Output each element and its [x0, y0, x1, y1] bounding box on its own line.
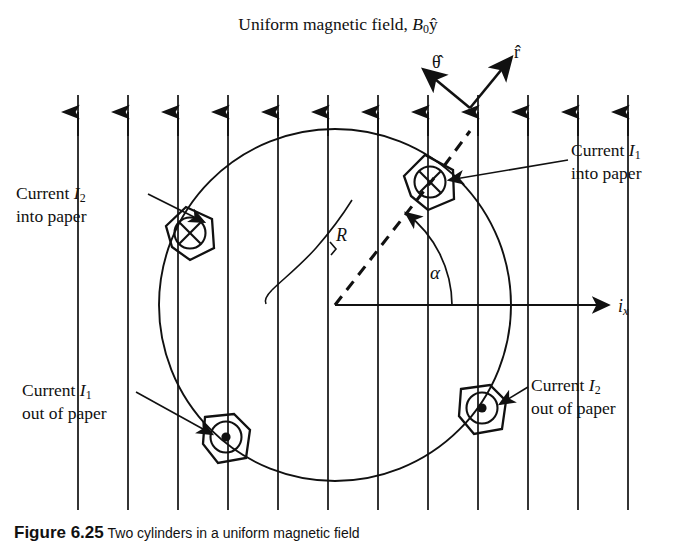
leader-i1-out: [136, 392, 212, 434]
field-hat: ŷ: [429, 14, 438, 34]
field-symbol: B: [412, 14, 423, 34]
leader-i1-into: [449, 160, 568, 180]
label-current-i2-out-of-paper: Current I2 out of paper: [531, 375, 616, 419]
label-lead: Current: [571, 140, 629, 160]
label-line-2: into paper: [571, 163, 641, 184]
label-current-subscript: 2: [595, 383, 601, 397]
label-current-subscript: 2: [80, 191, 86, 205]
r-hat-label: r̂: [514, 42, 520, 64]
label-lead: Current: [531, 375, 589, 395]
dashed-radius-extension: [444, 131, 470, 166]
alpha-angle-label: α: [430, 261, 440, 284]
label-line-1: Current I2: [531, 375, 616, 398]
current-dot-4: [477, 403, 486, 412]
x-axis-subscript: x: [623, 304, 628, 318]
label-line-1: Current I1: [571, 140, 641, 163]
radius-label: R: [336, 225, 347, 247]
figure-number: Figure 6.25: [14, 523, 104, 542]
theta-hat-label: θ̂: [432, 52, 441, 74]
x-axis-label: ix: [618, 296, 628, 319]
magnetic-field-lines: [78, 95, 628, 510]
label-line-2: out of paper: [531, 398, 616, 419]
label-lead: Current: [22, 380, 80, 400]
alpha-angle-arc: [406, 213, 452, 305]
label-line-2: into paper: [16, 206, 86, 227]
figure-caption-text: Two cylinders in a uniform magnetic fiel…: [108, 525, 360, 541]
theta-hat-vector: [424, 70, 470, 108]
leader-i2-out: [500, 387, 528, 404]
dashed-radius-line: [335, 178, 434, 305]
current-dot-3: [221, 432, 230, 441]
r-hat-vector: [470, 58, 511, 108]
figure-canvas: Uniform magnetic field, B0ŷ R α ix θ̂ r̂…: [0, 0, 676, 552]
diagram-svg: [0, 0, 676, 552]
label-current-subscript: 1: [635, 148, 641, 162]
label-lead: Current: [16, 183, 74, 203]
label-current-subscript: 1: [86, 388, 92, 402]
label-line-1: Current I2: [16, 183, 86, 206]
label-current-i1-into-paper: Current I1 into paper: [571, 140, 641, 184]
label-current-i1-out-of-paper: Current I1 out of paper: [22, 380, 107, 424]
figure-caption: Figure 6.25 Two cylinders in a uniform m…: [14, 523, 360, 544]
label-line-1: Current I1: [22, 380, 107, 403]
figure-title: Uniform magnetic field, B0ŷ: [0, 14, 676, 37]
current-symbol-i2-out-of-paper: [459, 385, 506, 434]
label-line-2: out of paper: [22, 403, 107, 424]
radius-leader-hook: [265, 290, 272, 304]
label-current-i2-into-paper: Current I2 into paper: [16, 183, 86, 227]
title-lead: Uniform magnetic field,: [238, 14, 412, 34]
